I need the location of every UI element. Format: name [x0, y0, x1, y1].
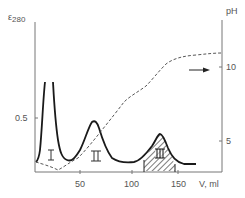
x-axis-title: V, ml — [199, 179, 219, 189]
arrow-right-icon — [203, 68, 210, 73]
right-tick-label-5: 5 — [226, 136, 231, 146]
chart-svg: 50 100 150 0.5 5 10 ε280 pH V, ml — [0, 0, 245, 198]
peak-label-i — [48, 150, 54, 160]
right-axis-title: pH — [226, 6, 238, 16]
peak-label-ii — [91, 151, 101, 161]
peak-label-iii — [155, 148, 165, 159]
left-axis-title: ε280 — [8, 12, 26, 24]
absorbance-curve — [36, 82, 196, 164]
left-tick-label-0-5: 0.5 — [15, 113, 28, 123]
x-tick-label-50: 50 — [75, 179, 85, 189]
chromatogram-chart: 50 100 150 0.5 5 10 ε280 pH V, ml — [0, 0, 245, 198]
ph-curve — [36, 53, 222, 170]
x-tick-label-150: 150 — [171, 179, 186, 189]
x-tick-label-100: 100 — [124, 179, 139, 189]
right-tick-label-10: 10 — [226, 62, 236, 72]
